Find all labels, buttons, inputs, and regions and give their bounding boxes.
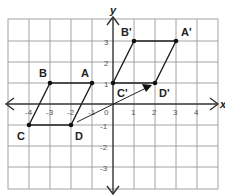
x-tick: 1 <box>131 108 136 117</box>
label-d-prime: D' <box>159 87 170 99</box>
label-d: D <box>75 130 83 142</box>
x-tick: 3 <box>173 108 178 117</box>
point-c <box>27 123 32 128</box>
x-tick: -2 <box>67 108 75 117</box>
x-axis-label: x <box>219 98 225 110</box>
point-a <box>90 81 95 86</box>
label-b: B <box>39 67 47 79</box>
y-tick: 1 <box>104 80 109 89</box>
label-a-prime: A' <box>181 26 192 38</box>
point-a-prime <box>174 39 179 44</box>
y-tick: -1 <box>100 122 108 131</box>
x-tick-labels: -4 -3 -2 -1 0 1 2 3 4 <box>25 108 199 117</box>
x-tick: 0 <box>104 108 109 117</box>
parallelogram-image: A' B' C' D' <box>111 26 192 99</box>
y-tick: -2 <box>100 143 108 152</box>
point-b-prime <box>132 39 137 44</box>
y-tick: 3 <box>104 38 109 47</box>
y-axis-label: y <box>109 4 117 16</box>
label-a: A <box>81 67 89 79</box>
point-b <box>48 81 53 86</box>
arrowhead-icon <box>142 84 152 92</box>
x-tick: -4 <box>25 108 33 117</box>
y-tick-labels: 3 2 1 -1 -2 -3 <box>100 38 109 173</box>
coordinate-plane-diagram: y x -4 -3 -2 -1 0 1 2 3 4 3 2 1 -1 -2 -3… <box>0 0 225 196</box>
y-tick: 2 <box>104 59 109 68</box>
x-tick: 2 <box>152 108 157 117</box>
x-tick: 4 <box>194 108 199 117</box>
label-b-prime: B' <box>121 26 132 38</box>
label-c: C <box>17 130 25 142</box>
y-tick: -3 <box>100 164 108 173</box>
point-d-prime <box>153 81 158 86</box>
point-d <box>69 123 74 128</box>
point-c-prime <box>111 81 116 86</box>
x-tick: -3 <box>46 108 54 117</box>
